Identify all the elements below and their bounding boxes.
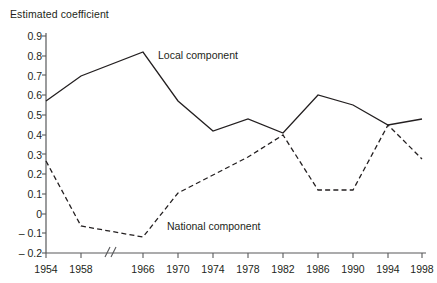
series-line-local-component	[46, 52, 422, 133]
axis-break-icon	[105, 247, 116, 257]
series-line-national-component	[46, 125, 422, 237]
chart-figure: Estimated coefficient 0.9 0.8 0.7 0.6 0.…	[0, 0, 437, 283]
x-axis-ticks	[46, 253, 422, 258]
chart-plot-area	[0, 0, 437, 283]
